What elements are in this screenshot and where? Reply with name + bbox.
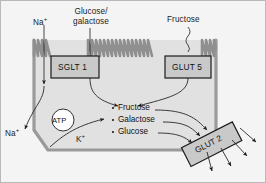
label-glucose-galactose: Glucose/ galactose	[63, 7, 119, 26]
diagram-root: Na+ Glucose/ galactose Fructose SGLT 1 G…	[0, 0, 266, 183]
efflux-arrow-3	[221, 148, 231, 166]
label-potassium-influx: K+	[76, 132, 85, 144]
label-sodium-efflux: Na+	[5, 126, 19, 138]
efflux-arrow-1	[240, 128, 256, 142]
label-sglt1: SGLT 1	[58, 62, 87, 72]
list-item-galactose: Galactose	[118, 115, 155, 124]
label-sodium-apical: Na+	[33, 15, 47, 27]
label-glut5: GLUT 5	[172, 62, 202, 72]
list-item-fructose: Fructose	[118, 103, 150, 112]
diagram-canvas	[0, 0, 266, 183]
label-fructose-apical: Fructose	[167, 15, 200, 25]
list-item-glucose: Glucose	[118, 127, 148, 136]
label-atp: ATP	[52, 116, 66, 125]
